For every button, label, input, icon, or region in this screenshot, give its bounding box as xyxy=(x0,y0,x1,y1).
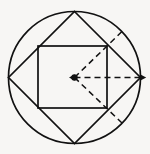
diagonal-ray-upper-right xyxy=(75,32,123,78)
diagonal-ray-lower-right xyxy=(75,78,123,124)
figure-container xyxy=(0,0,150,154)
center-dot xyxy=(71,74,77,80)
geometry-diagram xyxy=(0,0,150,154)
